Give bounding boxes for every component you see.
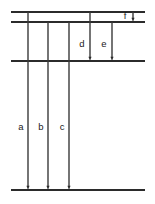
transition-label-f: f bbox=[124, 10, 127, 21]
diagram-canvas: abcdef bbox=[0, 0, 155, 204]
transition-label-c: c bbox=[60, 121, 65, 132]
transition-label-e: e bbox=[101, 38, 106, 49]
energy-levels-group bbox=[11, 12, 145, 190]
transition-labels-group: abcdef bbox=[18, 10, 126, 132]
transition-label-d: d bbox=[79, 38, 84, 49]
transition-label-b: b bbox=[38, 121, 43, 132]
transition-label-a: a bbox=[18, 121, 24, 132]
energy-level-diagram: abcdef bbox=[0, 0, 155, 204]
